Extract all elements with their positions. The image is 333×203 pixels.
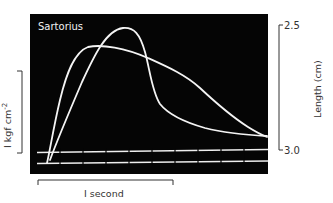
- force-scale-label: I kgf cm-2: [1, 103, 13, 148]
- time-scale-bar: I second: [38, 180, 173, 199]
- length-tick-top: 2.5: [284, 20, 300, 31]
- length-axis: 2.5 3.0 Length (cm): [279, 20, 323, 156]
- length-axis-label: Length (cm): [312, 60, 323, 118]
- time-scale-label: I second: [84, 188, 124, 199]
- panel-title: Sartorius: [38, 21, 83, 32]
- length-tick-bottom: 3.0: [284, 145, 300, 156]
- chart-figure: Sartorius I kgf cm-2 2.5 3.0 Length (c: [0, 0, 333, 203]
- force-scale-bar: I kgf cm-2: [1, 71, 22, 153]
